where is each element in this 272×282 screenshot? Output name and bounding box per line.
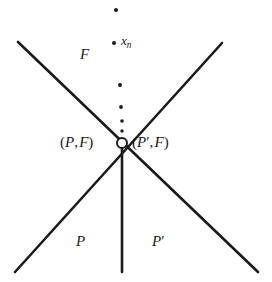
sequence-dot-3 <box>118 83 122 87</box>
vertex-label-right-first: P <box>137 134 146 150</box>
vertex-label-left-comma: , <box>74 134 78 150</box>
vertex-label-right-Pprime-F: (P′, F) <box>132 135 169 150</box>
sequence-dot-4 <box>119 105 123 109</box>
region-label-P: P <box>76 234 85 249</box>
vertex-label-right-close-paren: ) <box>164 134 169 150</box>
line-upper-right-to-lower-left <box>15 43 222 272</box>
vertex-open-circle-marker <box>117 138 127 148</box>
region-label-P-prime-mark: ′ <box>161 233 164 249</box>
point-label-xn-subscript: n <box>127 40 132 50</box>
vertex-label-right-comma: , <box>149 134 153 150</box>
region-label-P-prime: P′ <box>152 234 164 249</box>
diagram-canvas: F xn (P, F) (P′, F) P P′ <box>0 0 272 282</box>
vertex-label-left-P-F: (P, F) <box>60 135 93 150</box>
region-label-P-prime-base: P <box>152 233 161 249</box>
sequence-dot-5 <box>120 119 124 123</box>
line-upper-left-to-lower-right <box>18 42 258 272</box>
vertex-label-left-close-paren: ) <box>88 134 93 150</box>
point-label-xn: xn <box>121 34 131 50</box>
vertex-label-left-second: F <box>79 134 88 150</box>
vertex-label-right-second: F <box>154 134 163 150</box>
vertex-label-left-first: P <box>65 134 74 150</box>
sequence-dot-2-xn <box>112 41 116 45</box>
sequence-dot-1 <box>114 8 118 12</box>
region-label-F: F <box>80 47 89 62</box>
sequence-dot-6 <box>120 129 123 132</box>
